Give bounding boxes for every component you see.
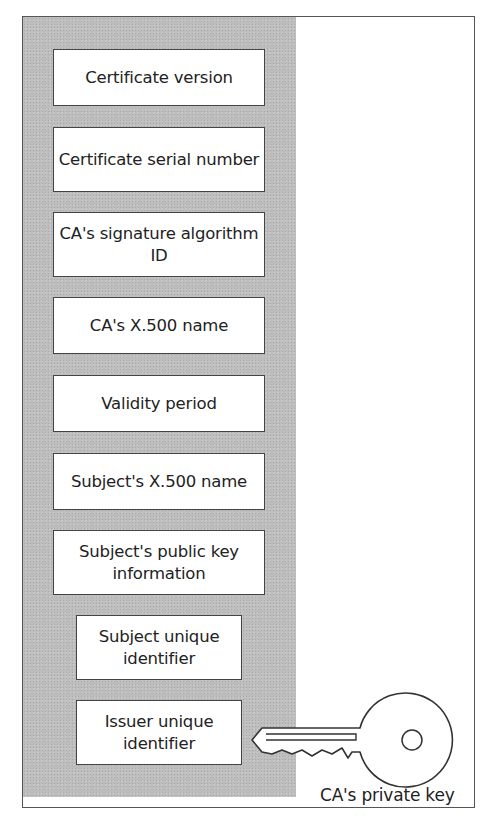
private-key-label: CA's private key [320,785,455,805]
key-icon [0,0,487,823]
